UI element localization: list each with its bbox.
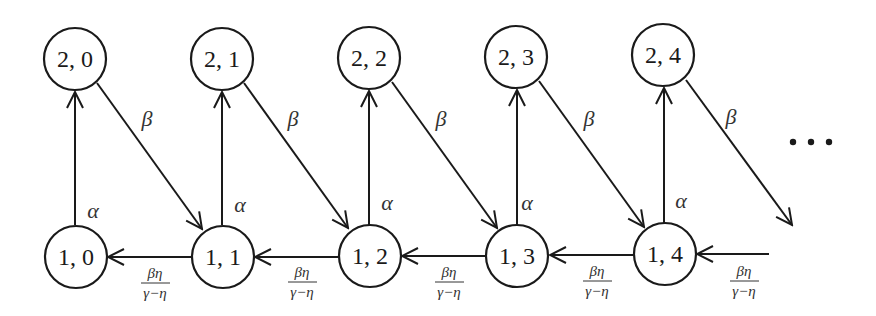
label-beta-2: β [435,106,447,131]
node-1-4: 1, 4 [634,223,696,285]
label-alpha-0: α [87,198,99,223]
svg-text:2, 1: 2, 1 [204,46,240,72]
svg-text:2, 3: 2, 3 [498,44,534,70]
svg-text:1, 2: 1, 2 [352,243,388,269]
svg-text:2, 2: 2, 2 [351,45,387,71]
svg-text:1, 0: 1, 0 [58,244,94,270]
label-beta-4: β [725,104,737,129]
label-beta-1: β [287,106,299,131]
edge-beta-3 [539,81,644,227]
label-frac-4: βη γ−η [730,263,759,299]
svg-text:γ−η: γ−η [290,284,313,300]
label-frac-2: βη γ−η [435,264,464,300]
ellipsis-icon [790,139,832,145]
label-alpha-1: α [234,192,246,217]
svg-text:γ−η: γ−η [585,283,608,299]
node-1-0: 1, 0 [45,226,107,288]
svg-text:2, 4: 2, 4 [645,42,681,68]
edge-beta-0 [97,83,202,229]
svg-text:βη: βη [736,263,752,279]
node-2-3: 2, 3 [485,26,547,88]
svg-text:γ−η: γ−η [732,283,755,299]
svg-text:1, 3: 1, 3 [499,243,535,269]
node-2-0: 2, 0 [44,28,106,90]
node-2-1: 2, 1 [191,28,253,90]
svg-text:2, 0: 2, 0 [57,46,93,72]
node-2-4: 2, 4 [632,24,694,86]
node-1-3: 1, 3 [486,225,548,287]
node-1-2: 1, 2 [339,225,401,287]
svg-text:βη: βη [441,264,457,280]
label-frac-1: βη γ−η [288,264,317,300]
svg-text:γ−η: γ−η [437,284,460,300]
label-frac-0: βη γ−η [141,265,170,301]
edge-beta-2 [392,82,497,228]
label-alpha-3: α [521,190,533,215]
svg-text:βη: βη [294,264,310,280]
svg-text:βη: βη [589,263,605,279]
edge-beta-4 [686,80,792,225]
svg-text:γ−η: γ−η [143,285,166,301]
label-beta-0: β [141,106,153,131]
node-2-2: 2, 2 [338,27,400,89]
svg-text:βη: βη [147,265,163,281]
state-transition-diagram: 2, 0 2, 1 2, 2 2, 3 2, 4 1, 0 1, 1 1, 2 … [0,0,876,316]
label-beta-3: β [583,106,595,131]
label-alpha-2: α [381,190,393,215]
node-1-1: 1, 1 [192,226,254,288]
edge-beta-1 [244,83,348,228]
label-alpha-4: α [675,188,687,213]
label-frac-3: βη γ−η [583,263,612,299]
svg-text:1, 4: 1, 4 [647,241,683,267]
svg-text:1, 1: 1, 1 [205,244,241,270]
